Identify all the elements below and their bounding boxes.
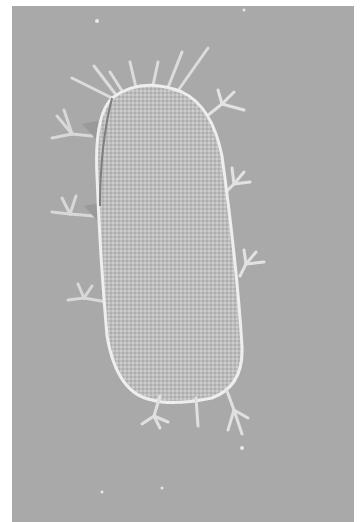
tardigrade-illustration: [12, 6, 354, 522]
micrograph-field: tardigrade: [12, 6, 354, 522]
tardigrade-body: [97, 85, 243, 402]
